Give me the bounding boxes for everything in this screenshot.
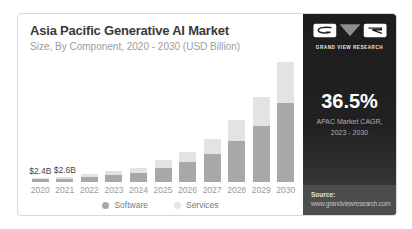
bar-segment-software bbox=[130, 173, 147, 182]
bar-segment-services bbox=[179, 152, 196, 162]
legend-item-software: Software bbox=[102, 200, 148, 210]
bar-stack bbox=[204, 139, 221, 182]
bar-segment-software bbox=[32, 179, 49, 182]
software-legend-dot-icon bbox=[102, 202, 109, 209]
bar-segment-software bbox=[155, 168, 172, 183]
chart-title: Asia Pacific Generative AI Market bbox=[30, 23, 303, 38]
bar-segment-software bbox=[253, 126, 270, 182]
logo-block: GRAND VIEW RESEARCH bbox=[313, 14, 387, 50]
bar-stack bbox=[179, 152, 196, 182]
x-axis-label: 2021 bbox=[55, 185, 74, 195]
services-legend-dot-icon bbox=[174, 202, 181, 209]
x-axis-label: 2027 bbox=[203, 185, 222, 195]
cagr-label-line1: APAC Market CAGR, bbox=[317, 118, 383, 125]
brand-sidebar: GRAND VIEW RESEARCH 36.5% APAC Market CA… bbox=[303, 14, 396, 215]
bar-stack bbox=[253, 97, 270, 182]
source-footer: Source: www.grandviewresearch.com bbox=[303, 185, 396, 215]
bar-stack bbox=[130, 168, 147, 182]
bar-stack bbox=[56, 177, 73, 182]
bar-segment-software bbox=[105, 175, 122, 182]
bar-stack bbox=[32, 178, 49, 183]
x-axis-label: 2029 bbox=[252, 185, 271, 195]
bar-stack bbox=[155, 160, 172, 182]
bar-stack bbox=[228, 120, 245, 182]
bar-segment-software bbox=[56, 179, 73, 182]
x-axis-label: 2023 bbox=[104, 185, 123, 195]
bar-stack bbox=[105, 171, 122, 182]
bars-area: $2.4B2020$2.6B20212022202320242025202620… bbox=[28, 49, 298, 195]
bar-stack bbox=[81, 174, 98, 182]
bar-segment-services bbox=[277, 62, 294, 103]
x-axis-label: 2022 bbox=[80, 185, 99, 195]
bar-stack bbox=[277, 62, 294, 183]
bar-column: $2.6B2021 bbox=[53, 49, 78, 195]
brand-name: GRAND VIEW RESEARCH bbox=[313, 45, 387, 50]
bar-column: 2030 bbox=[273, 49, 298, 195]
bar-column: 2028 bbox=[224, 49, 249, 195]
bar-segment-services bbox=[204, 139, 221, 154]
x-axis-label: 2028 bbox=[227, 185, 246, 195]
x-axis-label: 2030 bbox=[276, 185, 295, 195]
legend-label-software: Software bbox=[114, 200, 148, 210]
chart-area: Asia Pacific Generative AI Market Size, … bbox=[18, 14, 303, 215]
cagr-stat-block: 36.5% APAC Market CAGR, 2023 - 2030 bbox=[317, 90, 383, 139]
bar-value-label: $2.6B bbox=[54, 165, 76, 175]
bar-column: 2029 bbox=[249, 49, 274, 195]
bar-column: 2023 bbox=[102, 49, 127, 195]
bar-segment-software bbox=[228, 141, 245, 182]
cagr-label-line2: 2023 - 2030 bbox=[331, 129, 368, 136]
bar-column: 2027 bbox=[200, 49, 225, 195]
bar-column: 2024 bbox=[126, 49, 151, 195]
infographic-card: Asia Pacific Generative AI Market Size, … bbox=[17, 13, 397, 216]
source-url-link[interactable]: www.grandviewresearch.com bbox=[311, 200, 388, 207]
gvr-logo-icon bbox=[313, 23, 387, 38]
bar-segment-software bbox=[179, 162, 196, 182]
bar-column: $2.4B2020 bbox=[28, 49, 53, 195]
legend: Software Services bbox=[18, 200, 303, 210]
bar-segment-services bbox=[155, 160, 172, 168]
bar-column: 2022 bbox=[77, 49, 102, 195]
bar-segment-software bbox=[277, 103, 294, 183]
cagr-value: 36.5% bbox=[317, 90, 383, 113]
source-label: Source: bbox=[311, 191, 388, 198]
bar-segment-software bbox=[81, 177, 98, 182]
bar-value-label: $2.4B bbox=[29, 166, 51, 176]
bar-column: 2026 bbox=[175, 49, 200, 195]
chart-header: Asia Pacific Generative AI Market Size, … bbox=[18, 14, 303, 52]
bar-column: 2025 bbox=[151, 49, 176, 195]
bar-segment-services bbox=[228, 120, 245, 141]
bar-segment-services bbox=[253, 97, 270, 126]
x-axis-label: 2025 bbox=[154, 185, 173, 195]
bar-segment-software bbox=[204, 154, 221, 182]
legend-item-services: Services bbox=[174, 200, 219, 210]
legend-label-services: Services bbox=[186, 200, 219, 210]
cagr-label: APAC Market CAGR, 2023 - 2030 bbox=[317, 117, 383, 139]
x-axis-label: 2026 bbox=[178, 185, 197, 195]
x-axis-label: 2020 bbox=[31, 185, 50, 195]
x-axis-label: 2024 bbox=[129, 185, 148, 195]
